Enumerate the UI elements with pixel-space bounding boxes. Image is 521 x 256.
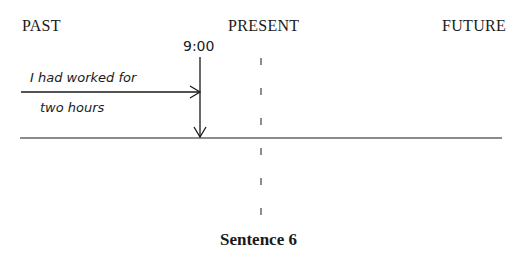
timeline-lines [0, 0, 521, 256]
right-arrow-icon [21, 86, 200, 98]
down-arrow-icon [194, 57, 206, 137]
diagram-caption: Sentence 6 [220, 230, 297, 250]
